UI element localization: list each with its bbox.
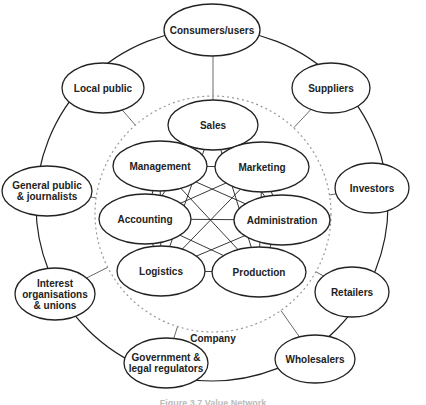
node-label: & journalists <box>17 191 78 202</box>
node-label: & unions <box>34 300 77 311</box>
node-label: Marketing <box>238 162 285 173</box>
external-node-suppliers: Suppliers <box>292 63 370 113</box>
external-node-government: Government &legal regulators <box>124 338 208 388</box>
figure-caption: Figure 3.7 Value Network <box>0 396 426 405</box>
external-node-investors: Investors <box>335 163 409 213</box>
external-node-consumers: Consumers/users <box>164 4 260 56</box>
value-network-diagram: Consumers/usersSuppliersInvestorsRetaile… <box>0 0 426 405</box>
external-node-local-public: Local public <box>62 63 144 113</box>
node-label: Consumers/users <box>170 25 255 36</box>
node-label: Suppliers <box>308 83 354 94</box>
node-label: Government & <box>132 352 201 363</box>
node-label: Administration <box>247 215 318 226</box>
external-node-interest: Interestorganisations& unions <box>15 268 95 320</box>
node-label: Interest <box>37 278 74 289</box>
internal-node-administration: Administration <box>234 195 330 245</box>
external-node-general-public: General public& journalists <box>2 166 92 216</box>
node-label: organisations <box>22 289 88 300</box>
internal-node-management: Management <box>113 141 207 191</box>
internal-node-sales: Sales <box>168 100 258 150</box>
external-node-retailers: Retailers <box>315 267 389 317</box>
internal-node-logistics: Logistics <box>117 246 205 296</box>
node-label: Management <box>129 161 191 172</box>
node-label: Logistics <box>139 266 183 277</box>
external-node-wholesalers: Wholesalers <box>275 335 355 383</box>
node-label: Production <box>233 267 286 278</box>
internal-node-production: Production <box>212 247 306 297</box>
node-label: General public <box>12 180 82 191</box>
internal-node-marketing: Marketing <box>215 142 309 192</box>
internal-node-accounting: Accounting <box>99 194 191 244</box>
node-label: Sales <box>200 120 227 131</box>
node-label: Investors <box>350 183 395 194</box>
node-label: Local public <box>74 83 133 94</box>
node-label: legal regulators <box>129 363 204 374</box>
company-label: Company <box>190 333 236 344</box>
node-label: Wholesalers <box>286 354 345 365</box>
node-label: Retailers <box>331 287 374 298</box>
node-label: Accounting <box>118 214 173 225</box>
